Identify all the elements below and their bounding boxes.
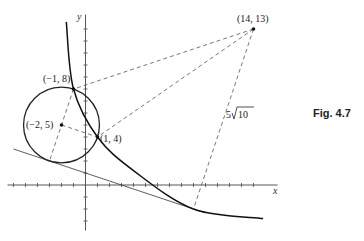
x-axis-label: x: [272, 185, 278, 196]
label-point-neg1-8: (−1, 8): [43, 73, 70, 85]
dashed-segment: [62, 125, 98, 137]
dashed-lines: [50, 29, 254, 209]
label-point-14-13: (14, 13): [237, 13, 269, 25]
points: [60, 27, 256, 139]
point-p_2_5: [60, 123, 64, 127]
figure-canvas: x y (14, 13) (−1, 8) (−2, 5) (1, 4) 5 10…: [0, 0, 364, 241]
distance-label-coef: 5: [226, 109, 231, 120]
point-p1_4: [96, 135, 100, 139]
label-point-1-4: (1, 4): [100, 133, 122, 145]
distance-label: 5 10: [226, 107, 254, 120]
distance-label-radicand: 10: [238, 109, 248, 120]
point-p14_13: [252, 27, 256, 31]
label-point-neg2-5: (−2, 5): [26, 119, 53, 131]
point-p_1_8: [72, 87, 76, 91]
figure-caption: Fig. 4.7: [313, 107, 351, 119]
y-axis-label: y: [76, 11, 82, 22]
tangent-line: [14, 149, 206, 213]
curve: [66, 22, 263, 219]
dashed-segment: [74, 29, 254, 89]
dashed-segment: [98, 29, 254, 137]
